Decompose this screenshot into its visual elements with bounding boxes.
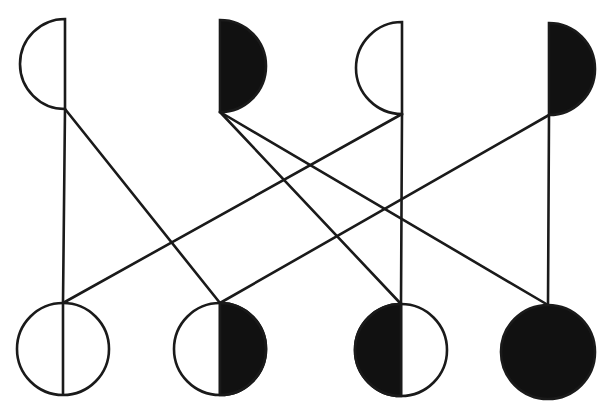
diagram-canvas	[0, 0, 616, 411]
top-node-T4	[549, 23, 595, 115]
open-half-circle-icon	[20, 19, 65, 109]
top-node-T3	[356, 22, 402, 114]
right-half-fill-icon	[220, 303, 266, 395]
top-node-T2	[220, 20, 266, 112]
cross-diagram	[0, 0, 616, 411]
edges-layer	[63, 109, 549, 305]
filled-circle-icon	[501, 305, 595, 399]
top-node-T1	[20, 19, 65, 109]
open-half-circle-icon	[356, 22, 402, 114]
filled-half-circle-icon	[220, 20, 266, 112]
bottom-node-B2	[174, 303, 266, 395]
edge-T1-B1	[63, 109, 65, 303]
bottom-node-B3	[355, 304, 447, 396]
edge-T2-B3	[220, 112, 401, 304]
nodes-layer	[17, 19, 595, 399]
edge-T4-B4	[548, 115, 549, 305]
bottom-node-B4	[501, 305, 595, 399]
edge-T3-B1	[63, 114, 402, 303]
left-half-fill-icon	[355, 304, 401, 396]
edge-T1-B2	[65, 109, 220, 303]
edge-T3-B3	[401, 114, 402, 304]
filled-half-circle-icon	[549, 23, 595, 115]
bottom-node-B1	[17, 303, 109, 395]
edge-T4-B2	[220, 115, 549, 303]
